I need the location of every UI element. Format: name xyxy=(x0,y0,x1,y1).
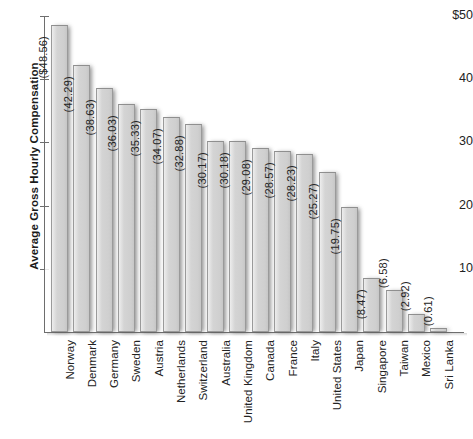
bar-slot: (2.92) xyxy=(408,16,425,332)
x-axis-label: France xyxy=(287,340,299,376)
x-axis-label: Sri Lanka xyxy=(443,340,455,389)
x-axis-label: Mexico xyxy=(420,340,432,377)
bar-value-label: (0.61) xyxy=(420,289,457,326)
x-axis-label: United Kingdom xyxy=(242,340,254,423)
bar-slot: (0.61) xyxy=(430,16,447,332)
x-axis-label: Taiwan xyxy=(398,340,410,376)
bar-chart: Average Gross Hourly Compensation $50403… xyxy=(0,0,473,439)
x-axis-label: Norway xyxy=(64,340,76,380)
x-axis-label: United States xyxy=(331,340,343,410)
x-axis-label: Austria xyxy=(153,340,165,377)
x-axis-label: Singapore xyxy=(376,340,388,393)
x-axis-label: Denmark xyxy=(86,340,98,387)
x-axis-label: Sweden xyxy=(130,340,142,382)
x-axis-label: Italy xyxy=(309,340,321,362)
bar-slot: (25.27) xyxy=(319,16,336,332)
x-axis-label: Australia xyxy=(220,340,232,386)
plot-area: ($48.56)(42.29)(38.63)(36.03)(35.33)(34.… xyxy=(45,16,465,332)
bar-slot: (36.03) xyxy=(118,16,135,332)
x-axis-shadow xyxy=(47,333,467,336)
bar-slot: (34.07) xyxy=(163,16,180,332)
x-axis-label: Germany xyxy=(108,340,120,388)
x-axis-label: Japan xyxy=(353,340,365,372)
x-axis-label: Canada xyxy=(264,340,276,381)
bar-slot: (35.33) xyxy=(140,16,157,332)
bar-slot: ($48.56) xyxy=(51,16,68,332)
bar-slot: (42.29) xyxy=(73,16,90,332)
x-axis-label: Netherlands xyxy=(175,340,187,403)
bar-slot: (28.23) xyxy=(296,16,313,332)
bar[interactable] xyxy=(430,328,447,332)
bar-slot: (38.63) xyxy=(96,16,113,332)
x-axis-label: Switzerland xyxy=(197,340,209,401)
